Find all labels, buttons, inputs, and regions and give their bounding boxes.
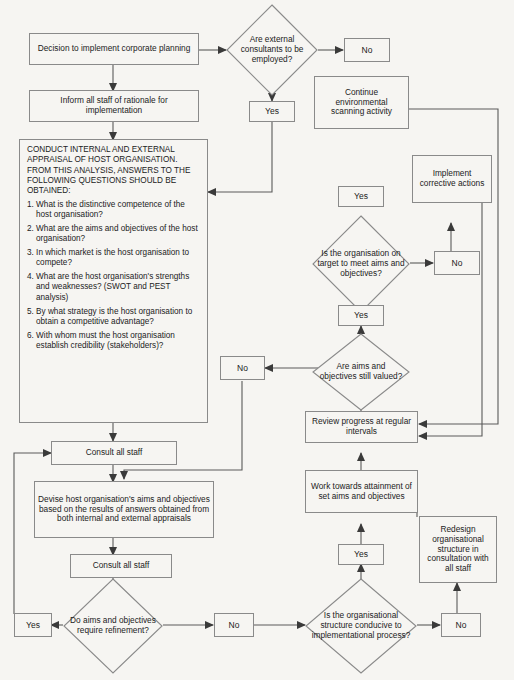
node-label: Consult all staff	[93, 561, 150, 571]
node-review-progress: Review progress at regular intervals	[305, 411, 418, 443]
label-structure-no: No	[441, 613, 481, 637]
label-refinement-yes: Yes	[14, 613, 52, 637]
node-label: Yes	[26, 620, 40, 630]
node-label: Consult all staff	[86, 448, 143, 458]
node-label: Yes	[354, 549, 368, 559]
conduct-question-2: 2. What are the aims and objectives of t…	[27, 224, 201, 245]
node-label: Are aims and objectives still valued?	[318, 362, 404, 382]
node-label: Do aims and objectives require refinemen…	[68, 616, 158, 636]
node-label: Review progress at regular intervals	[309, 417, 414, 437]
node-label: Redesign organisational structure in con…	[423, 525, 493, 574]
label-structure-yes: Yes	[338, 544, 384, 565]
node-consult-all-staff-first: Consult all staff	[51, 441, 177, 465]
node-label: Devise host organisation's aims and obje…	[38, 495, 210, 524]
node-label: No	[362, 45, 373, 55]
node-conduct-appraisal: CONDUCT INTERNAL AND EXTERNAL APPRAISAL …	[19, 139, 208, 423]
node-devise-host-aims: Devise host organisation's aims and obje…	[34, 481, 214, 538]
node-implement-corrective-actions: Implement corrective actions	[412, 155, 492, 203]
flowchart-canvas: Decision to implement corporate planning…	[0, 0, 514, 680]
node-label: Work towards attainment of set aims and …	[309, 482, 414, 502]
node-label: No	[237, 363, 248, 373]
node-label: Continue environmental scanning activity	[318, 88, 405, 117]
node-label: No	[229, 620, 240, 630]
node-inform-all-staff: Inform all staff of rationale for implem…	[29, 90, 199, 122]
node-label: Are external consultants to be employed?	[230, 35, 314, 65]
node-consult-all-staff-second: Consult all staff	[70, 554, 172, 578]
node-label: No	[456, 620, 467, 630]
label-external-consultants-no: No	[344, 38, 390, 62]
node-work-towards-attainment: Work towards attainment of set aims and …	[305, 470, 418, 513]
node-label: Is the organisational structure conduciv…	[308, 611, 414, 641]
node-label: Yes	[265, 106, 279, 116]
node-label: No	[452, 258, 463, 268]
node-label: Yes	[354, 310, 368, 320]
node-are-aims-still-valued: Are aims and objectives still valued?	[318, 350, 404, 394]
conduct-appraisal-heading: CONDUCT INTERNAL AND EXTERNAL APPRAISAL …	[27, 145, 201, 197]
node-is-structure-conducive: Is the organisational structure conduciv…	[308, 597, 414, 655]
node-is-organisation-on-target: Is the organisation on target to meet ai…	[315, 236, 407, 292]
label-on-target-no: No	[434, 251, 480, 275]
node-do-aims-require-refinement: Do aims and objectives require refinemen…	[68, 600, 158, 652]
node-label: Inform all staff of rationale for implem…	[33, 96, 195, 116]
node-label: Yes	[354, 191, 368, 201]
conduct-question-3: 3. In which market is the host organisat…	[27, 248, 201, 269]
label-aims-valued-no: No	[220, 356, 265, 380]
conduct-question-6: 6. With whom must the host organisation …	[27, 331, 201, 352]
node-label: Decision to implement corporate planning	[38, 44, 191, 54]
node-label: Is the organisation on target to meet ai…	[315, 249, 407, 279]
node-label: Implement corrective actions	[416, 169, 488, 189]
conduct-question-4: 4. What are the host organisation's stre…	[27, 272, 201, 303]
conduct-question-5: 5. By what strategy is the host organisa…	[27, 307, 201, 328]
label-external-consultants-yes: Yes	[249, 101, 295, 122]
node-decision-to-implement: Decision to implement corporate planning	[29, 33, 199, 65]
node-continue-environmental-scanning: Continue environmental scanning activity	[314, 76, 409, 129]
label-refinement-no: No	[214, 613, 254, 637]
node-redesign-organisational-structure: Redesign organisational structure in con…	[419, 516, 497, 583]
node-are-external-consultants: Are external consultants to be employed?	[230, 22, 314, 78]
label-on-target-yes: Yes	[338, 186, 384, 207]
label-aims-valued-yes: Yes	[338, 305, 384, 326]
conduct-question-1: 1. What is the distinctive competence of…	[27, 200, 201, 221]
